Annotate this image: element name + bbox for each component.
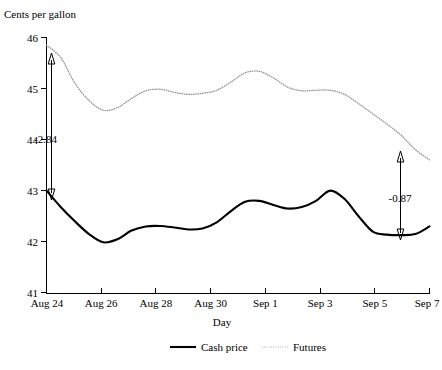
y-axis-tick-labels: 46 45 44 43 42 41 [27,32,39,299]
x-tick-label-5: Sep 3 [308,297,333,309]
x-tick-label-2: Aug 28 [140,297,173,309]
x-tick-label-7: Sep 7 [415,297,440,309]
x-tick-label-3: Aug 30 [194,297,227,309]
legend-label-futures: Futures [293,341,326,353]
y-tick-label-43: 43 [27,185,39,197]
x-tick-label-0: Aug 24 [31,297,64,309]
x-axis-ticks [47,288,430,294]
annotation-minus-2-84: -2.84 [34,53,57,200]
series-line-futures [47,45,430,160]
x-axis-title: Day [213,316,232,328]
y-axis-title: Cents per gallon [4,8,77,20]
chart-figure: Cents per gallon 46 45 44 43 42 41 [0,0,442,370]
y-axis-ticks [41,38,47,293]
x-tick-label-1: Aug 26 [85,297,118,309]
y-tick-label-42: 42 [27,236,38,248]
annotation-minus-0-87: -0.87 [389,151,412,240]
legend-label-cash-price: Cash price [201,341,248,353]
annotation-label-1: -2.84 [34,133,57,145]
chart-legend: Cash price Futures [170,341,326,353]
x-tick-label-6: Sep 5 [362,297,387,309]
x-tick-label-4: Sep 1 [253,297,278,309]
series-line-cash-price [47,191,430,243]
y-tick-label-45: 45 [27,83,39,95]
y-tick-label-46: 46 [27,32,39,44]
line-chart: Cents per gallon 46 45 44 43 42 41 [0,0,442,370]
x-axis-tick-labels: Aug 24 Aug 26 Aug 28 Aug 30 Sep 1 Sep 3 … [31,297,440,309]
annotation-label-2: -0.87 [389,192,412,204]
